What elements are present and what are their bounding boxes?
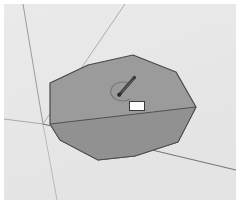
pencil-eraser-icon [133, 76, 136, 79]
measurement-value-box[interactable] [129, 101, 145, 111]
modeling-viewport[interactable] [4, 4, 236, 200]
scene-canvas[interactable] [4, 4, 236, 200]
application-window [0, 0, 240, 204]
pencil-tip-icon [117, 93, 121, 97]
